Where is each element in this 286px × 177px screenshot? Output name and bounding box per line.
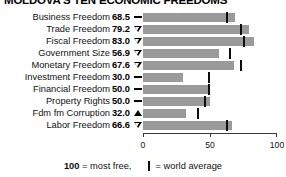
world-average-marker: [197, 108, 199, 119]
trend-down-icon-glyph: [134, 50, 142, 56]
economic-freedoms-chart: MOLDOVA'S TEN ECONOMIC FREEDOMS Business…: [0, 0, 286, 177]
freedom-bar-track: [143, 59, 277, 71]
axis-tick: [143, 133, 144, 137]
freedom-bar: [143, 25, 249, 34]
trend-flat-icon: [133, 11, 143, 23]
legend-most-free-text: = most free,: [82, 161, 131, 171]
freedom-bar: [143, 109, 186, 118]
trend-down-icon-glyph: [134, 62, 142, 68]
world-average-marker: [208, 84, 210, 95]
freedom-score: 32.0: [108, 107, 130, 119]
trend-flat-icon: [133, 95, 143, 107]
trend-down-icon: [133, 47, 143, 59]
trend-flat-icon: [133, 71, 143, 83]
freedom-score: 79.2: [108, 23, 130, 35]
freedom-bar-track: [143, 119, 277, 131]
trend-up-icon-glyph: [134, 110, 142, 116]
freedom-bar: [143, 73, 183, 82]
axis-tick: [276, 133, 277, 137]
freedom-label: Investment Freedom: [25, 71, 110, 83]
world-average-marker: [226, 120, 228, 131]
freedom-bar-track: [143, 11, 277, 23]
trend-down-icon: [133, 35, 143, 47]
world-average-marker: [243, 36, 245, 47]
trend-flat-icon-glyph: [134, 16, 142, 18]
freedom-row: Investment Freedom30.0: [0, 71, 286, 83]
legend-most-free-value: 100: [64, 161, 80, 171]
freedom-score: 56.9: [108, 47, 130, 59]
world-average-marker: [240, 60, 242, 71]
axis-tick-label: 0: [128, 139, 158, 151]
freedom-score: 67.6: [108, 59, 130, 71]
freedom-score: 50.0: [108, 83, 130, 95]
axis-tick-label: 50: [195, 139, 225, 151]
freedom-bar-track: [143, 23, 277, 35]
trend-down-icon-glyph: [134, 26, 142, 32]
freedom-bar: [143, 37, 254, 46]
freedom-row: Monetary Freedom67.6: [0, 59, 286, 71]
freedom-bar-track: [143, 83, 277, 95]
freedom-label: Monetary Freedom: [31, 59, 110, 71]
chart-title: MOLDOVA'S TEN ECONOMIC FREEDOMS: [4, 0, 227, 6]
freedom-row: Property Rights50.0: [0, 95, 286, 107]
freedom-score: 83.0: [108, 35, 130, 47]
trend-down-icon: [133, 119, 143, 131]
freedom-label: Trade Freedom: [46, 23, 110, 35]
freedom-row: Fiscal Freedom83.0: [0, 35, 286, 47]
world-average-marker: [229, 48, 231, 59]
freedom-bar-track: [143, 71, 277, 83]
freedom-bar: [143, 49, 219, 58]
world-average-marker: [240, 24, 242, 35]
freedom-score: 50.0: [108, 95, 130, 107]
freedom-bar: [143, 85, 210, 94]
trend-flat-icon-glyph: [134, 100, 142, 102]
freedom-label: Business Freedom: [32, 11, 110, 23]
freedom-bar: [143, 13, 235, 22]
trend-flat-icon: [133, 83, 143, 95]
world-average-marker: [208, 72, 210, 83]
freedom-bar-track: [143, 95, 277, 107]
freedom-row: Financial Freedom50.0: [0, 83, 286, 95]
freedom-score: 68.5: [108, 11, 130, 23]
freedom-bar: [143, 121, 232, 130]
axis-tick: [210, 133, 211, 137]
freedom-row: Labor Freedom66.6: [0, 119, 286, 131]
freedom-label: Fdm fm Corruption: [33, 107, 111, 119]
axis-tick-label: 100: [262, 139, 286, 151]
freedom-label: Fiscal Freedom: [46, 35, 110, 47]
chart-legend: 100 = most free, = world average: [0, 158, 286, 174]
freedom-bar-track: [143, 47, 277, 59]
world-average-marker: [204, 96, 206, 107]
trend-up-icon: [133, 107, 143, 119]
freedom-score: 66.6: [108, 119, 130, 131]
world-average-mark-icon: [148, 161, 150, 171]
x-axis-labels: 050100: [0, 139, 286, 151]
freedom-row: Fdm fm Corruption32.0: [0, 107, 286, 119]
freedom-label: Labor Freedom: [46, 119, 110, 131]
trend-flat-icon-glyph: [134, 88, 142, 90]
freedom-bar-track: [143, 35, 277, 47]
freedom-row: Trade Freedom79.2: [0, 23, 286, 35]
freedom-row: Government Size56.9: [0, 47, 286, 59]
trend-down-icon: [133, 59, 143, 71]
legend-world-average-text: = world average: [156, 161, 222, 171]
freedom-label: Financial Freedom: [33, 83, 110, 95]
freedom-bar: [143, 97, 210, 106]
freedom-label: Government Size: [38, 47, 110, 59]
freedom-bar-track: [143, 107, 277, 119]
freedom-row: Business Freedom68.5: [0, 11, 286, 23]
world-average-marker: [226, 12, 228, 23]
freedom-rows: Business Freedom68.5Trade Freedom79.2Fis…: [0, 11, 286, 131]
trend-down-icon-glyph: [134, 38, 142, 44]
trend-down-icon-glyph: [134, 122, 142, 128]
freedom-score: 30.0: [108, 71, 130, 83]
freedom-label: Property Rights: [46, 95, 110, 107]
trend-flat-icon-glyph: [134, 76, 142, 78]
freedom-bar: [143, 61, 234, 70]
trend-down-icon: [133, 23, 143, 35]
